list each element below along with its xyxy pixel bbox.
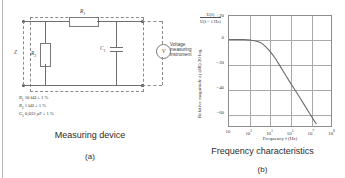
component-values-list: R1 10 kΩ ± 1 % R2 1 kΩ ± 1 % C1 0,033 µF… xyxy=(19,95,54,119)
resistor-r2-label: R2 xyxy=(31,50,36,58)
voltmeter-symbol: V xyxy=(156,44,171,59)
figure-a-measuring-device: Z R2 R1 C1 V Voltage measuring instrumen… xyxy=(0,0,180,178)
component-value-r1: R1 10 kΩ ± 1 % xyxy=(19,95,54,103)
figure-a-caption: Measuring device xyxy=(0,130,180,140)
x-tick-label-4: 107 xyxy=(303,129,319,136)
x-tick-label-1: 102 xyxy=(241,129,257,136)
x-tick-label-2: 103 xyxy=(261,129,277,136)
resistor-r1-label: R1 xyxy=(80,8,85,16)
wire-meter-bottom xyxy=(142,85,162,86)
impedance-label: Z xyxy=(14,49,17,55)
figure-a-subcaption: (a) xyxy=(0,152,180,161)
y-tick-label-3: −40 xyxy=(206,85,224,90)
plot-area xyxy=(228,15,332,127)
wire-r1-to-out xyxy=(97,21,142,22)
response-curve xyxy=(229,16,331,126)
component-value-r2: R2 1 kΩ ± 1 % xyxy=(19,103,54,111)
wire-bottom-rail xyxy=(23,85,142,86)
resistor-r1 xyxy=(69,17,99,27)
wire-r2-bottom xyxy=(45,64,46,85)
y-tick-label-1: 0 xyxy=(206,35,224,40)
capacitor-c1-plate-top xyxy=(110,47,123,48)
y-axis-title: Relative magnitude a) (dB) 20 log xyxy=(197,50,202,118)
wire-to-r1 xyxy=(45,21,70,22)
x-axis-title: Frequency f (Hz) xyxy=(228,136,332,141)
wire-meter-right-top xyxy=(162,21,163,44)
wire-left-vertical xyxy=(23,21,24,85)
wire-c1-top xyxy=(116,21,117,47)
capacitor-c1-label: C1 xyxy=(100,45,105,53)
x-tick-label-5: 108 xyxy=(324,129,340,136)
wire-meter-top xyxy=(142,21,162,22)
figure-b-frequency-characteristics: U(f) U(f = 1 Hz) Relative magnitude a) (… xyxy=(180,0,345,178)
x-tick-label-3: 105 xyxy=(282,129,298,136)
figure-b-subcaption: (b) xyxy=(180,165,345,174)
component-value-c1: C1 0,033 µF ± 1 % xyxy=(19,111,54,119)
y-tick-label-2: −20 xyxy=(206,60,224,65)
x-tick-label-0: 10 xyxy=(220,129,236,134)
figure-b-caption: Frequency characteristics xyxy=(180,146,345,156)
y-tick-label-4: −60 xyxy=(206,110,224,115)
y-tick-label-0: +20 xyxy=(206,13,224,18)
wire-c1-bottom xyxy=(116,51,117,85)
wire-meter-right-bottom xyxy=(162,57,163,85)
formula-denominator: U(f = 1 Hz) xyxy=(200,18,221,24)
